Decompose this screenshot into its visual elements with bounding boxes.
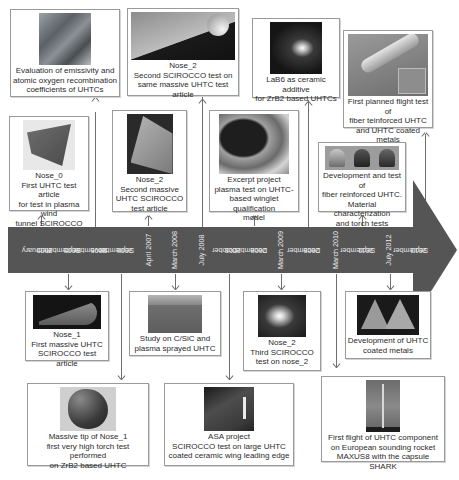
connector-nov-2005 (95, 112, 96, 227)
caption-line: fiber teinforced UHTC (345, 116, 431, 126)
caption-line: Evaluation of emissivity and (12, 66, 118, 76)
event-card-coated-metals: Development of UHTC coated metals (345, 291, 431, 359)
date-label: March 2008 (164, 228, 186, 272)
event-card-emissivity: Evaluation of emissivity and atomic oxyg… (10, 9, 120, 97)
nose-0-cone-photo (23, 120, 75, 170)
caption-line: coefficients of UHTCs (12, 85, 118, 95)
winglet-test-photo (219, 114, 289, 174)
connector-dec-2009 (308, 100, 309, 227)
caption-line: Excerpt project (211, 175, 297, 185)
arrow-down-icon (118, 375, 125, 381)
caption-line: Development and test of (320, 171, 404, 190)
caption-line: SCIROCCO test article (27, 349, 107, 368)
connector-mar-2010 (336, 274, 337, 368)
caption-line: Third SCIROCCO (245, 348, 319, 358)
event-card-nose2-third: Nose_2 Third SCIROCCO test on nose_2 (243, 291, 321, 371)
caption-line: Study on C/SiC and (131, 334, 219, 344)
caption-line: Material characterization (320, 200, 404, 219)
caption-line: Second massive (114, 185, 185, 195)
caption-line: Nose_2 (129, 61, 237, 71)
massive-tip-photo (60, 387, 116, 431)
csic-coating-photo (148, 295, 202, 333)
rocket-launch-photo (366, 380, 400, 432)
wing-leading-edge-photo (204, 387, 254, 431)
caption-line: SCIROCCO test on large UHTC (166, 442, 292, 452)
event-card-lab6: LaB6 as ceramic additive for ZrB2 based … (252, 18, 340, 98)
date-label: April 2007 (138, 228, 160, 272)
caption-line: model (211, 213, 297, 223)
date-label: December2008 (244, 228, 266, 272)
event-card-nose1: Nose_1 First massive UHTC SCIROCCO test … (25, 291, 109, 361)
nose-1-photo (33, 295, 101, 329)
caption-line: First flight of UHTC component (323, 433, 443, 443)
caption-line: LaB6 as ceramic additive (254, 75, 338, 94)
nose-2-third-test-photo (258, 295, 306, 337)
event-card-asa-project: ASA project SCIROCCO test on large UHTC … (164, 383, 294, 466)
caption-line: on European sounding rocket (323, 443, 443, 453)
caption-line: Nose_0 (11, 171, 87, 181)
event-card-maxus8-flight: First flight of UHTC component on Europe… (321, 376, 445, 462)
event-card-nose2-second-massive: Nose_2 Second massive UHTC SCIROCCO test… (112, 110, 187, 212)
caption-line: First UHTC test article (11, 181, 87, 200)
caption-line: plasma test on UHTC- (211, 185, 297, 195)
caption-line: atomic oxygen recombination (12, 76, 118, 86)
caption-line: Nose_2 (245, 338, 319, 348)
caption-line: tunnel SCIROCCO (11, 219, 87, 229)
caption-line: First planned flight test of (345, 97, 431, 116)
caption-line: test on nose_2 (245, 357, 319, 367)
caption-line: coated metals (347, 346, 429, 356)
date-label: September2006 (110, 228, 132, 272)
connector-sep-2006 (121, 274, 122, 380)
event-card-massive-tip: Massive tip of Nose_1 first very high to… (27, 383, 149, 466)
caption-line: test article (114, 204, 185, 214)
coated-cones-photo (357, 295, 419, 335)
date-label: December2009 (297, 228, 319, 272)
caption-line: coated ceramic wing leading edge (166, 451, 292, 461)
event-card-fiber-reinforced: Development and test of fiber reinforced… (318, 142, 406, 212)
caption-line: Nose_1 (27, 330, 107, 340)
event-card-nose0: Nose_0 First UHTC test article for test … (9, 116, 89, 211)
caption-line: MAXUS8 with the capsule SHARK (323, 452, 443, 471)
date-label: September2011 (351, 228, 373, 272)
caption-line: UHTC SCIROCCO (114, 194, 185, 204)
lab6-plasma-photo (270, 22, 322, 74)
caption-line: first very high torch test performed (29, 442, 147, 461)
caption-line: same massive UHTC test article (129, 80, 237, 99)
vacuum-chamber-photo (39, 13, 91, 65)
event-card-nose2-second-test: Nose_2 Second SCIROCCO test on same mass… (127, 8, 239, 96)
date-label: September2013 (404, 228, 426, 272)
arrow-up-icon (145, 215, 152, 221)
event-card-excerpt-winglet: Excerpt project plasma test on UHTC- bas… (209, 110, 299, 212)
nose-2-cone-photo (127, 114, 173, 174)
arrow-down-icon (226, 375, 233, 381)
caption-line: for ZrB2 based UHTCs (254, 94, 338, 104)
caption-line: Massive tip of Nose_1 (29, 432, 147, 442)
nose-plasma-test-photo (131, 12, 235, 60)
connector-jul-2008 (202, 97, 203, 227)
event-card-csic-study: Study on C/SiC and plasma sprayed UHTC (129, 291, 221, 356)
caption-line: First massive UHTC (27, 340, 107, 350)
event-card-flight-test-plan: First planned flight test of fiber teinf… (343, 30, 433, 128)
caption-line: Nose_2 (114, 175, 185, 185)
date-label: July 2008 (191, 228, 213, 272)
caption-line: and torch tests (320, 219, 404, 229)
caption-line: on ZrB2 based UHTC (29, 461, 147, 471)
three-samples-photo (325, 146, 399, 170)
arrow-up-icon (92, 97, 99, 103)
caption-line: based winglet qualification (211, 194, 297, 213)
caption-line: ASA project (166, 432, 292, 442)
caption-line: Development of UHTC (347, 336, 429, 346)
caption-line: plasma sprayed UHTC (131, 344, 219, 354)
caption-line: for test in plasma wind (11, 200, 87, 219)
flight-vehicle-render (348, 34, 428, 96)
connector-oct-2008 (229, 274, 230, 380)
caption-line: Second SCIROCCO test on (129, 71, 237, 81)
arrow-down-icon (333, 363, 340, 369)
caption-line: fiber reinforced UHTC. (320, 190, 404, 200)
